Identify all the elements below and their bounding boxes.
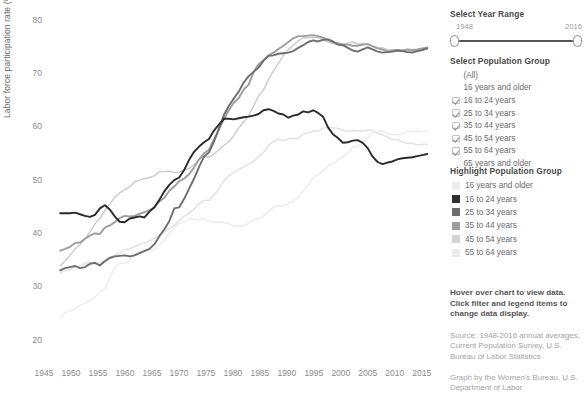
population-option-label: 16 years and older [464,83,532,92]
instruction-line-2: Click filter and legend items to [450,299,584,310]
y-tick-label: 50 [16,175,42,185]
credit-line-1: Graph by the Women's Bureau, U.S. [450,373,584,383]
x-tick-label: 2005 [353,368,383,378]
chart-series-line [60,131,427,318]
highlight-legend-item[interactable]: 35 to 44 years [450,219,582,232]
x-tick-label: 1995 [299,368,329,378]
chart-series-line [60,37,427,266]
population-option[interactable]: 45 to 54 years [450,132,582,145]
instruction-line-1: Hover over chart to view data. [450,288,584,299]
source-line-2: Current Population Survey, U.S. [450,341,584,351]
checkbox-icon[interactable] [452,109,460,117]
year-range-section: Select Year Range 1948 2016 [450,9,582,48]
x-tick-label: 1960 [110,368,140,378]
highlight-legend-label: 55 to 64 years [465,248,517,257]
y-axis-ticks: 20304050607080 [12,0,42,390]
legend-swatch-icon [452,222,460,230]
instructions: Hover over chart to view data. Click fil… [450,288,584,320]
year-range-slider[interactable] [450,34,582,48]
x-tick-label: 1990 [272,368,302,378]
y-tick-label: 40 [16,228,42,238]
checkbox-icon[interactable] [452,135,460,143]
x-tick-label: 1965 [137,368,167,378]
year-range-values: 1948 2016 [450,22,582,33]
y-tick-label: 30 [16,281,42,291]
population-group-title: Select Population Group [450,56,582,66]
population-option[interactable]: 25 to 34 years [450,107,582,120]
slider-track[interactable] [459,40,573,42]
x-tick-label: 1975 [191,368,221,378]
year-range-min-value: 1948 [456,22,473,31]
population-option-label: 45 to 54 years [464,134,516,143]
x-tick-label: 1945 [29,368,59,378]
legend-swatch-icon [452,195,460,203]
checkbox-icon[interactable] [452,147,460,155]
highlight-legend-item[interactable]: 16 years and older [450,179,582,192]
population-option[interactable]: 16 to 24 years [450,94,582,107]
population-option[interactable]: (All) [450,69,582,82]
year-range-title: Select Year Range [450,9,582,19]
highlight-legend-item[interactable]: 55 to 64 years [450,246,582,259]
highlight-legend-label: 16 to 24 years [465,195,517,204]
x-tick-label: 2015 [407,368,437,378]
plot-area[interactable] [44,10,438,366]
source-line-1: Source: 1948-2016 annual averages, [450,331,584,341]
legend-swatch-icon [452,235,460,243]
highlight-group-title: Highlight Population Group [450,166,582,176]
chart-panel[interactable]: Labor force participation rate (%) 20304… [0,0,444,390]
population-option-label: 25 to 34 years [464,109,516,118]
notes-section: Hover over chart to view data. Click fil… [450,288,584,394]
slider-handle-max[interactable] [573,35,582,47]
legend-swatch-icon [452,208,460,216]
highlight-legend-label: 16 years and older [465,181,533,190]
checkbox-icon[interactable] [452,97,460,105]
source-note: Source: 1948-2016 annual averages, Curre… [450,331,584,362]
controls-panel: Select Year Range 1948 2016 Select Popul… [448,0,584,390]
x-tick-label: 1970 [164,368,194,378]
x-tick-label: 1980 [218,368,248,378]
chart-series-line [60,109,427,222]
highlight-legend-item[interactable]: 45 to 54 years [450,233,582,246]
slider-handle-min[interactable] [450,35,459,47]
x-axis-ticks: 1945195019551960196519701975198019851990… [0,368,444,384]
y-tick-label: 20 [16,335,42,345]
population-group-section: Select Population Group (All)16 years an… [450,56,582,170]
credit-note: Graph by the Women's Bureau, U.S. Depart… [450,373,584,394]
population-option[interactable]: 35 to 44 years [450,119,582,132]
checkbox-placeholder [452,84,460,92]
checkbox-icon[interactable] [452,122,460,130]
credit-line-2: Department of Labor [450,383,584,393]
instruction-line-3: change data display. [450,309,584,320]
legend-swatch-icon [452,249,460,257]
y-tick-label: 70 [16,68,42,78]
highlight-legend-label: 35 to 44 years [465,221,517,230]
y-tick-label: 80 [16,15,42,25]
population-group-list: (All)16 years and older16 to 24 years25 … [450,69,582,170]
checkbox-placeholder [452,72,460,80]
population-option-label: 35 to 44 years [464,121,516,130]
population-option-label: 16 to 24 years [464,96,516,105]
population-option-label: (All) [464,71,479,80]
highlight-legend-item[interactable]: 16 to 24 years [450,192,582,205]
year-range-max-value: 2016 [565,22,582,31]
y-axis-label: Labor force participation rate (%) [2,0,12,118]
population-option[interactable]: 16 years and older [450,82,582,95]
population-option[interactable]: 55 to 64 years [450,145,582,158]
x-tick-label: 1985 [245,368,275,378]
line-chart-svg [44,10,438,362]
highlight-group-section: Highlight Population Group 16 years and … [450,166,582,259]
x-tick-label: 2010 [380,368,410,378]
highlight-legend-item[interactable]: 25 to 34 years [450,206,582,219]
source-line-3: Bureau of Labor Statistics [450,352,584,362]
x-tick-label: 1950 [56,368,86,378]
x-tick-label: 2000 [326,368,356,378]
x-tick-label: 1955 [83,368,113,378]
highlight-legend-label: 25 to 34 years [465,208,517,217]
highlight-group-legend: 16 years and older16 to 24 years25 to 34… [450,179,582,259]
legend-swatch-icon [452,182,460,190]
chart-series-line [60,127,427,273]
population-option-label: 55 to 64 years [464,146,516,155]
highlight-legend-label: 45 to 54 years [465,235,517,244]
y-tick-label: 60 [16,121,42,131]
